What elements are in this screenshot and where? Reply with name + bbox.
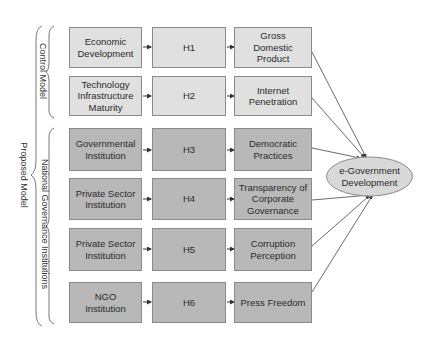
- indicator-box-corruption-perception: Corruption Perception: [234, 228, 312, 271]
- source-box-technology-infrastructure: Technology Infrastructure Maturity: [69, 76, 142, 116]
- proposed-model-label: Proposed Model: [19, 142, 29, 208]
- indicator-box-press-freedom: Press Freedom: [234, 282, 312, 323]
- hypothesis-box-h4: H4: [152, 178, 226, 220]
- indicator-box-democratic-practices: Democratic Practices: [234, 128, 312, 171]
- indicator-box-transparency: Transparency of Corporate Governance: [234, 178, 312, 220]
- indicator-box-internet-penetration: Internet Penetration: [234, 76, 312, 116]
- hypothesis-box-h6: H6: [152, 282, 226, 323]
- source-box-private-sector-h5: Private Sector Institution: [69, 228, 142, 271]
- control-model-label: Control Model: [38, 41, 48, 101]
- source-box-governmental-institution: Governmental Institution: [69, 128, 142, 171]
- hypothesis-box-h5: H5: [152, 228, 226, 271]
- source-box-ngo-institution: NGO Institution: [69, 282, 142, 323]
- outcome-label: e-Government Development: [326, 157, 413, 196]
- national-governance-label: National Governance Institutions: [40, 149, 50, 299]
- hypothesis-box-h2: H2: [152, 76, 226, 116]
- source-box-economic-development: Economic Development: [69, 27, 142, 68]
- source-box-private-sector-h4: Private Sector Institution: [69, 178, 142, 220]
- hypothesis-box-h3: H3: [152, 128, 226, 171]
- indicator-box-gdp: Gross Domestic Product: [234, 27, 312, 68]
- hypothesis-box-h1: H1: [152, 27, 226, 68]
